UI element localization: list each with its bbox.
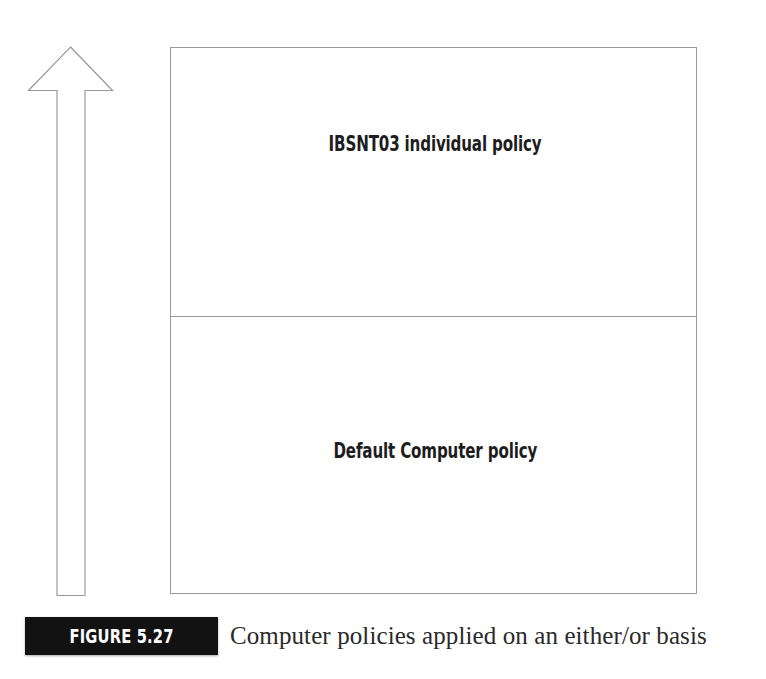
policy-label-default: Default Computer policy bbox=[334, 439, 538, 463]
policy-section-individual: IBSNT03 individual policy bbox=[171, 48, 696, 317]
figure-container: IBSNT03 individual policy Default Comput… bbox=[0, 0, 766, 679]
policy-stack: IBSNT03 individual policy Default Comput… bbox=[170, 47, 697, 594]
up-arrow-outline-icon bbox=[29, 47, 113, 596]
figure-caption-row: FIGURE 5.27 Computer policies applied on… bbox=[0, 612, 766, 668]
policy-section-default: Default Computer policy bbox=[171, 317, 696, 593]
figure-number-label: FIGURE 5.27 bbox=[69, 625, 173, 647]
figure-caption-text: Computer policies applied on an either/o… bbox=[230, 616, 760, 656]
figure-number-badge: FIGURE 5.27 bbox=[25, 617, 218, 655]
policy-label-individual: IBSNT03 individual policy bbox=[329, 132, 542, 156]
